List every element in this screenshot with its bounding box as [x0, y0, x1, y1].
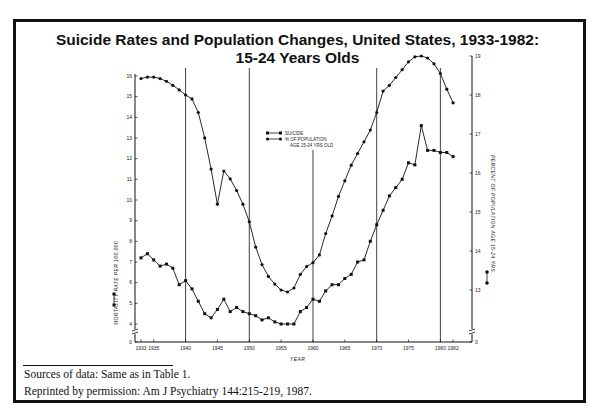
data-point — [394, 186, 397, 189]
data-point — [394, 76, 397, 79]
axis-break-icon — [132, 329, 138, 334]
x-tick-label: 1933 — [135, 345, 146, 351]
data-point — [305, 265, 308, 268]
data-point — [445, 151, 448, 154]
data-point — [210, 316, 213, 319]
data-point — [140, 256, 143, 259]
data-point — [191, 287, 194, 290]
data-point — [184, 93, 187, 96]
y-tick-label: 6 — [129, 279, 132, 285]
axis-break-icon — [469, 329, 475, 334]
y2-tick-label: 15 — [475, 209, 481, 215]
data-point — [439, 151, 442, 154]
legend-suicide-marker-icon — [266, 132, 269, 135]
x-tick-label: 1940 — [180, 345, 191, 351]
x-tick-label: 1955 — [276, 345, 287, 351]
data-point — [426, 56, 429, 59]
data-point — [139, 77, 142, 80]
y-tick-label: 16 — [126, 73, 132, 79]
data-point — [369, 129, 372, 132]
x-tick-label: 1980 — [435, 345, 446, 351]
data-point — [159, 77, 162, 80]
data-point — [432, 62, 435, 65]
data-point — [171, 267, 174, 270]
data-point — [197, 300, 200, 303]
data-point — [292, 286, 295, 289]
y-tick-label: 10 — [126, 197, 132, 203]
vertical-gridlines — [186, 68, 441, 342]
data-point — [420, 124, 423, 127]
data-point — [356, 152, 359, 155]
data-point — [280, 288, 283, 291]
legend: SUICIDE % OF POPULATION AGE 15-24 YRS OL… — [266, 131, 334, 148]
data-point — [152, 76, 155, 79]
data-point — [401, 178, 404, 181]
data-point — [280, 323, 283, 326]
x-tick-label: 1960 — [307, 345, 318, 351]
data-point — [401, 68, 404, 71]
line-chart: 0456789101112131415160131415161718191933… — [0, 0, 595, 412]
legend-population-marker-icon — [266, 137, 269, 140]
data-point — [254, 246, 257, 249]
y-tick-label: 15 — [126, 93, 132, 99]
data-point — [216, 203, 219, 206]
y-tick-label: 5 — [129, 300, 132, 306]
y2-tick-label: 0 — [475, 339, 478, 345]
y-tick-label: 4 — [129, 321, 132, 327]
data-point — [324, 232, 327, 235]
legend-population-label: % OF POPULATION — [285, 137, 326, 142]
data-point — [439, 72, 442, 75]
data-point — [241, 310, 244, 313]
x-tick-label: 1965 — [339, 345, 350, 351]
data-point — [375, 223, 378, 226]
data-point — [178, 88, 181, 91]
data-point — [350, 273, 353, 276]
data-point — [235, 306, 238, 309]
data-point — [267, 316, 270, 319]
suicide-line — [141, 126, 453, 324]
data-point — [210, 168, 213, 171]
data-point — [286, 323, 289, 326]
data-point — [229, 310, 232, 313]
data-point — [311, 261, 314, 264]
data-point — [343, 277, 346, 280]
data-point — [235, 189, 238, 192]
y2-tick-label: 18 — [475, 92, 481, 98]
data-point — [146, 76, 149, 79]
data-point — [299, 273, 302, 276]
data-point — [312, 298, 315, 301]
data-point — [324, 289, 327, 292]
data-point — [267, 275, 270, 278]
data-point — [203, 136, 206, 139]
data-point — [178, 283, 181, 286]
axes: 0456789101112131415160131415161718191933… — [126, 53, 480, 351]
legend-population-label-line2: AGE 15-24 YRS OLD — [290, 143, 334, 148]
data-point — [356, 261, 359, 264]
data-point — [363, 258, 366, 261]
x-tick-label: 1970 — [371, 345, 382, 351]
data-point — [197, 111, 200, 114]
data-point — [229, 177, 232, 180]
data-point — [343, 179, 346, 182]
data-point — [452, 101, 455, 104]
data-point — [426, 149, 429, 152]
data-point — [203, 312, 206, 315]
data-point — [184, 279, 187, 282]
y-tick-label: 12 — [126, 155, 132, 161]
y-tick-label: 14 — [126, 114, 132, 120]
data-point — [318, 300, 321, 303]
data-point — [305, 306, 308, 309]
data-point — [216, 308, 219, 311]
y-tick-label: 11 — [127, 176, 132, 182]
legend-population-marker-icon — [279, 137, 282, 140]
x-tick-label: 1982 — [448, 345, 459, 351]
data-point — [273, 283, 276, 286]
data-point — [407, 161, 410, 164]
data-point — [388, 84, 391, 87]
data-point — [413, 55, 416, 58]
x-tick-label: 1945 — [212, 345, 223, 351]
data-point — [407, 60, 410, 63]
y-axis-title: MORTALITY RATE PER 100,000 — [113, 241, 119, 325]
population-line — [141, 56, 453, 292]
data-point — [420, 54, 423, 57]
